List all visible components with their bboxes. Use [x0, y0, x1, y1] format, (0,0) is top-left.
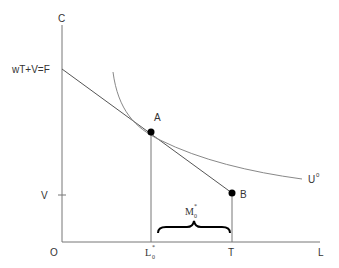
labor-leisure-diagram: C L O wT+V=F V A B T L * 0 M * 0 U 0 — [0, 0, 339, 268]
labor-supply-label: M * 0 — [185, 203, 197, 219]
x-axis-label: L — [318, 247, 324, 258]
optimal-hours-label: L * 0 — [145, 244, 155, 260]
origin-label: O — [50, 247, 58, 258]
endowment-income-label: wT+V=F — [11, 64, 50, 75]
labor-supply-label-base: M — [185, 206, 194, 217]
optimal-hours-label-base: L — [145, 247, 151, 258]
curly-brace — [158, 221, 230, 233]
labor-supply-label-sup: * — [194, 203, 197, 209]
point-a-marker — [148, 129, 155, 136]
point-b-marker — [229, 190, 236, 197]
indifference-curve — [113, 72, 302, 179]
point-b-label: B — [240, 189, 247, 200]
point-a-label: A — [154, 112, 161, 123]
indifference-curve-label: U 0 — [308, 172, 320, 185]
labor-supply-label-sub: 0 — [194, 213, 197, 219]
y-axis-label: C — [58, 13, 65, 24]
indifference-curve-label-sup: 0 — [316, 172, 320, 178]
time-endowment-label: T — [228, 247, 234, 258]
budget-line — [62, 69, 232, 193]
optimal-hours-label-sup: * — [152, 244, 155, 250]
indifference-curve-label-base: U — [308, 174, 315, 185]
optimal-hours-label-sub: 0 — [152, 254, 155, 260]
nonlabor-income-label: V — [41, 190, 48, 201]
